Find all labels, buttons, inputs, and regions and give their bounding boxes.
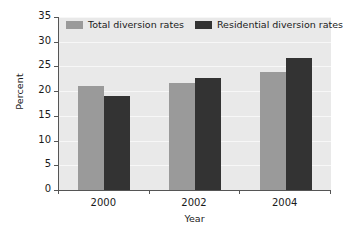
bar-group-2004	[240, 17, 331, 190]
bar-2000-residential	[104, 96, 130, 190]
legend-label: Residential diversion rates	[217, 19, 343, 30]
bar-group-2000	[59, 17, 150, 190]
bar-2004-residential	[286, 58, 312, 190]
bar-group-2002	[150, 17, 241, 190]
x-axis-tick-mark	[58, 190, 59, 194]
y-axis-tick-label: 35	[38, 10, 51, 21]
legend-swatch-icon	[66, 21, 83, 29]
bar-2002-residential	[195, 78, 221, 190]
y-axis: 05101520253035	[0, 0, 58, 242]
x-axis-tick-mark	[330, 190, 331, 194]
x-axis-tick-mark	[239, 190, 240, 194]
y-axis-tick-label: 10	[38, 134, 51, 145]
bar-2000-total	[78, 86, 104, 190]
y-axis-tick-label: 5	[45, 158, 51, 169]
legend-label: Total diversion rates	[88, 19, 184, 30]
y-axis-tick-label: 30	[38, 35, 51, 46]
y-axis-tick-label: 0	[45, 183, 51, 194]
legend-swatch-icon	[195, 21, 212, 29]
y-axis-tick-label: 15	[38, 109, 51, 120]
plot-area	[58, 17, 331, 191]
bar-2004-total	[260, 72, 286, 190]
legend-entry-total: Total diversion rates	[66, 19, 184, 30]
bar-2002-total	[169, 83, 195, 190]
legend-entry-residential: Residential diversion rates	[195, 19, 343, 30]
x-axis-title: Year	[58, 213, 331, 224]
x-axis-tick-label: 2002	[172, 197, 216, 208]
x-axis-tick-mark	[149, 190, 150, 194]
chart-legend: Total diversion ratesResidential diversi…	[66, 19, 343, 30]
x-axis-tick-label: 2004	[263, 197, 307, 208]
y-axis-tick-label: 20	[38, 84, 51, 95]
x-axis-tick-label: 2000	[81, 197, 125, 208]
y-axis-tick-label: 25	[38, 59, 51, 70]
